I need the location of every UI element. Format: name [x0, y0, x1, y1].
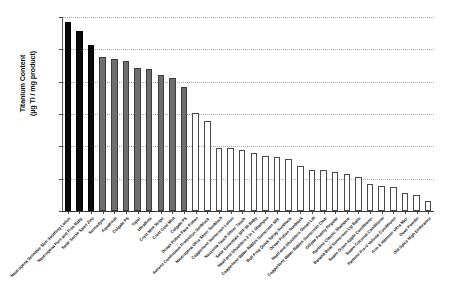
plot-area: 1001010.10.010.0010.0001 [62, 17, 434, 211]
bar[interactable] [227, 148, 234, 211]
bar[interactable] [123, 61, 130, 211]
gridline-100 [62, 17, 434, 18]
bar[interactable] [367, 184, 374, 211]
bar[interactable] [204, 121, 211, 211]
bar[interactable] [309, 170, 316, 211]
bar[interactable] [251, 153, 258, 211]
titanium-content-bar-chart: Titanium Content (µg Ti / mg product) 10… [0, 0, 454, 305]
bar[interactable] [378, 186, 385, 211]
bar[interactable] [413, 195, 420, 211]
bar[interactable] [76, 31, 83, 211]
bar[interactable] [239, 150, 246, 211]
x-axis-line [62, 211, 434, 212]
bar[interactable] [181, 87, 188, 211]
y-axis-title-line1: Titanium Content [18, 9, 28, 159]
bar[interactable] [111, 59, 118, 211]
gridline-0.001 [62, 179, 434, 180]
gridline-0.01 [62, 146, 434, 147]
bar[interactable] [262, 156, 269, 211]
bar[interactable] [146, 69, 153, 211]
bar[interactable] [297, 166, 304, 211]
y-axis-title-line2: (µg Ti / mg product) [27, 9, 37, 159]
gridline-0.1 [62, 114, 434, 115]
bar[interactable] [192, 113, 199, 211]
bar[interactable] [88, 45, 95, 211]
bar[interactable] [169, 78, 176, 211]
bar[interactable] [216, 148, 223, 211]
bar[interactable] [99, 57, 106, 211]
bar[interactable] [332, 172, 339, 211]
bar[interactable] [285, 159, 292, 211]
bar[interactable] [134, 68, 141, 211]
bar[interactable] [158, 75, 165, 211]
x-axis-category-labels: Neutrogena Sensitive Skin Soothing Lotio… [62, 215, 454, 305]
bar[interactable] [390, 187, 397, 211]
gridline-10 [62, 49, 434, 50]
bar[interactable] [65, 22, 72, 211]
bar[interactable] [274, 157, 281, 211]
bar[interactable] [425, 201, 432, 211]
bar[interactable] [355, 177, 362, 211]
bar[interactable] [402, 193, 409, 211]
bar[interactable] [344, 174, 351, 211]
gridline-1 [62, 82, 434, 83]
bar[interactable] [320, 170, 327, 211]
y-axis-line [62, 17, 63, 211]
y-axis-title: Titanium Content (µg Ti / mg product) [18, 9, 37, 159]
